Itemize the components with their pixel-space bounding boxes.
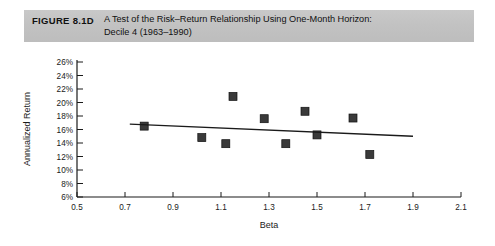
y-tick-label: 16%: [57, 126, 73, 135]
chart-area: 6%8%10%12%14%16%18%20%22%24%26% 0.50.70.…: [0, 44, 495, 246]
data-point-marker: [260, 115, 268, 123]
data-point-marker: [229, 92, 237, 100]
x-tick-label: 0.9: [167, 203, 179, 212]
y-axis: 6%8%10%12%14%16%18%20%22%24%26%: [57, 58, 83, 202]
y-tick-label: 18%: [57, 112, 73, 121]
data-point-marker: [349, 114, 357, 122]
x-tick-label: 2.1: [455, 203, 467, 212]
x-tick-label: 1.9: [407, 203, 419, 212]
y-axis-title: Annualized Return: [22, 92, 32, 166]
figure-number-label: FIGURE 8.1D: [32, 13, 94, 27]
figure-title-line-2: Decile 4 (1963–1990): [104, 26, 372, 39]
y-tick-label: 22%: [57, 85, 73, 94]
figure-container: FIGURE 8.1D A Test of the Risk–Return Re…: [0, 0, 495, 246]
y-tick-label: 8%: [61, 180, 73, 189]
y-tick-label: 20%: [57, 99, 73, 108]
figure-caption-bar: FIGURE 8.1D A Test of the Risk–Return Re…: [24, 10, 474, 42]
data-point-marker: [282, 140, 290, 148]
data-point-marker: [140, 122, 148, 130]
y-tick-label: 12%: [57, 153, 73, 162]
y-axis-ticks: [77, 62, 83, 197]
figure-title: A Test of the Risk–Return Relationship U…: [104, 13, 372, 39]
y-tick-label: 14%: [57, 139, 73, 148]
x-axis-tick-labels: 0.50.70.91.11.31.51.71.92.1: [71, 203, 467, 212]
x-axis-title: Beta: [260, 220, 279, 230]
x-tick-label: 1.7: [359, 203, 371, 212]
scatter-plot-svg: 6%8%10%12%14%16%18%20%22%24%26% 0.50.70.…: [0, 44, 495, 246]
y-tick-label: 26%: [57, 58, 73, 67]
y-axis-tick-labels: 6%8%10%12%14%16%18%20%22%24%26%: [57, 58, 73, 202]
trend-line-group: [130, 124, 413, 136]
y-tick-label: 6%: [61, 193, 73, 202]
x-axis-ticks: [77, 192, 461, 197]
x-axis: 0.50.70.91.11.31.51.71.92.1: [71, 192, 467, 212]
data-point-marker: [222, 140, 230, 148]
y-tick-label: 24%: [57, 72, 73, 81]
data-point-marker: [366, 150, 374, 158]
data-point-marker: [301, 107, 309, 115]
x-tick-label: 1.5: [311, 203, 323, 212]
x-tick-label: 1.3: [263, 203, 275, 212]
x-tick-label: 1.1: [215, 203, 227, 212]
x-tick-label: 0.7: [119, 203, 131, 212]
x-tick-label: 0.5: [71, 203, 83, 212]
y-tick-label: 10%: [57, 166, 73, 175]
figure-title-line-1: A Test of the Risk–Return Relationship U…: [104, 13, 372, 26]
data-point-marker: [198, 134, 206, 142]
regression-trend-line: [130, 124, 413, 136]
